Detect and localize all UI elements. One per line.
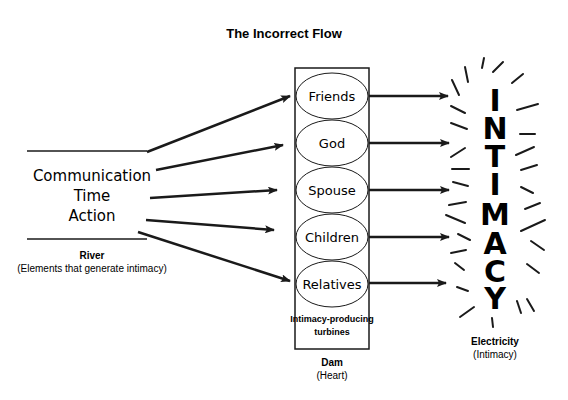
intimacy-word: I N T I M A C Y <box>480 83 510 316</box>
turbine-label-children: Children <box>305 230 359 245</box>
intimacy-letter-y: Y <box>483 281 507 316</box>
river-element-action: Action <box>69 207 116 225</box>
turbine-label-relatives: Relatives <box>302 277 361 292</box>
electricity-label: Electricity <box>471 336 519 347</box>
arrow-to-spouse <box>150 190 277 198</box>
river-element-time: Time <box>73 187 111 205</box>
electricity-sublabel: (Intimacy) <box>473 349 517 360</box>
dam-sublabel: (Heart) <box>316 370 347 381</box>
arrow-to-god <box>156 145 283 170</box>
arrow-to-friends <box>147 96 290 152</box>
river-element-communication: Communication <box>33 167 151 185</box>
dam-label: Dam <box>321 357 343 368</box>
turbine-label-god: God <box>319 136 345 151</box>
outflow-arrows <box>369 96 449 283</box>
dam: Friends God Spouse Children Relatives In… <box>290 68 374 381</box>
river-label: River <box>79 250 104 261</box>
turbines-caption-line1: Intimacy-producing <box>290 314 374 324</box>
inflow-arrows <box>138 96 290 281</box>
arrow-to-children <box>146 220 274 230</box>
river-sublabel: (Elements that generate intimacy) <box>17 263 167 274</box>
turbine-label-friends: Friends <box>309 89 356 104</box>
diagram-title: The Incorrect Flow <box>226 26 342 41</box>
river-section: Communication Time Action River (Element… <box>17 151 167 274</box>
turbine-label-spouse: Spouse <box>308 183 355 198</box>
incorrect-flow-diagram: The Incorrect Flow Communication Time Ac… <box>0 0 568 400</box>
turbines-caption-line2: turbines <box>314 327 350 337</box>
